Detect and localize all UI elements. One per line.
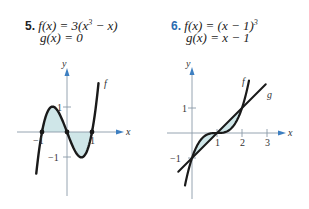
intersection-point bbox=[40, 130, 45, 135]
graphs: y x 1 −1 −1 1 f y x 1 −1 1 2 3 f g bbox=[0, 0, 309, 209]
graph-6: y x 1 −1 1 2 3 f g bbox=[167, 58, 293, 199]
tick-label: 1 bbox=[57, 102, 62, 113]
intersection-point bbox=[65, 130, 70, 135]
x-axis-arrow-icon bbox=[116, 130, 124, 135]
intersection-point bbox=[90, 130, 95, 135]
curve-label-g: g bbox=[267, 89, 272, 100]
tick-label: −1 bbox=[170, 153, 181, 164]
tick-label: −1 bbox=[33, 135, 44, 146]
tick-label: −1 bbox=[48, 152, 59, 163]
tick-label: 1 bbox=[90, 135, 95, 146]
y-axis-arrow-icon bbox=[65, 68, 70, 76]
tick-label: 2 bbox=[240, 137, 245, 148]
curve-label-f: f bbox=[242, 76, 246, 87]
tick-label: 1 bbox=[215, 137, 220, 148]
y-axis-label: y bbox=[61, 58, 67, 69]
x-axis-label: x bbox=[287, 127, 293, 138]
y-axis-label: y bbox=[185, 58, 191, 69]
tick-label: 3 bbox=[265, 137, 270, 148]
x-axis-arrow-icon bbox=[278, 131, 286, 136]
tick-label: 1 bbox=[182, 103, 187, 114]
line-g bbox=[178, 84, 266, 172]
curve-label-f: f bbox=[104, 78, 108, 89]
graph-5: y x 1 −1 −1 1 f bbox=[17, 58, 131, 196]
x-axis-label: x bbox=[125, 126, 131, 137]
